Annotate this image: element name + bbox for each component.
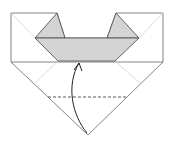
origami-diagram bbox=[0, 0, 171, 147]
paper-base bbox=[11, 13, 163, 135]
